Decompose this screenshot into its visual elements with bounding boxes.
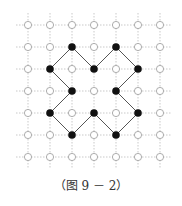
- filled-point: [68, 43, 76, 51]
- open-point: [90, 131, 97, 138]
- open-point: [134, 87, 141, 94]
- filled-point: [112, 43, 120, 51]
- edge-segment: [94, 47, 116, 69]
- edge-segment: [72, 113, 94, 135]
- open-point: [134, 153, 141, 160]
- open-point: [46, 131, 53, 138]
- open-point: [90, 43, 97, 50]
- open-point: [46, 87, 53, 94]
- open-point: [112, 153, 119, 160]
- filled-point: [90, 109, 98, 117]
- filled-point: [134, 65, 142, 73]
- edge-segment: [116, 47, 138, 69]
- edge-segment: [50, 91, 72, 113]
- open-point: [46, 153, 53, 160]
- open-point: [68, 153, 75, 160]
- open-point: [24, 65, 31, 72]
- open-point: [134, 43, 141, 50]
- open-point: [46, 43, 53, 50]
- edge-segment: [50, 69, 72, 91]
- filled-point: [68, 87, 76, 95]
- open-point: [112, 109, 119, 116]
- edge-segment: [116, 69, 138, 91]
- open-point: [24, 153, 31, 160]
- edge-segment: [50, 113, 72, 135]
- edge-segment: [94, 113, 116, 135]
- filled-point: [90, 65, 98, 73]
- open-point: [156, 109, 163, 116]
- open-point: [134, 21, 141, 28]
- open-point: [24, 131, 31, 138]
- edge-segment: [116, 91, 138, 113]
- open-point: [24, 109, 31, 116]
- open-point: [112, 21, 119, 28]
- open-point: [24, 87, 31, 94]
- filled-point: [112, 131, 120, 139]
- edge-segment: [116, 113, 138, 135]
- edge-segment: [72, 47, 94, 69]
- open-point: [156, 21, 163, 28]
- open-point: [112, 65, 119, 72]
- open-point: [68, 65, 75, 72]
- open-point: [156, 87, 163, 94]
- filled-point: [46, 65, 54, 73]
- open-point: [68, 109, 75, 116]
- open-point: [24, 21, 31, 28]
- filled-point: [112, 87, 120, 95]
- open-point: [134, 131, 141, 138]
- filled-point: [134, 109, 142, 117]
- open-point: [156, 131, 163, 138]
- filled-point: [68, 131, 76, 139]
- open-point: [90, 21, 97, 28]
- open-point: [90, 153, 97, 160]
- open-point: [24, 43, 31, 50]
- open-point: [156, 43, 163, 50]
- edge-segment: [50, 47, 72, 69]
- open-point: [68, 21, 75, 28]
- open-point: [156, 153, 163, 160]
- figure-caption: （图 9 － 2）: [0, 176, 182, 193]
- filled-point: [46, 109, 54, 117]
- open-point: [46, 21, 53, 28]
- open-point: [90, 87, 97, 94]
- open-point: [156, 65, 163, 72]
